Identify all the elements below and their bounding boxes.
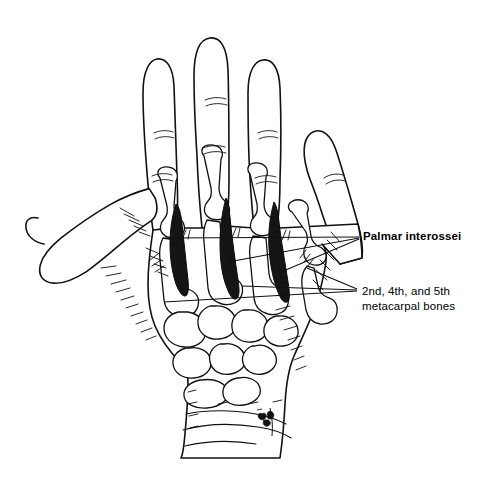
- carpal-bone-7: [242, 345, 276, 374]
- hand-anatomy-illustration: [0, 0, 481, 485]
- carpal-bone-9: [223, 377, 260, 405]
- carpal-bone-6: [209, 344, 245, 375]
- carpal-bone-3: [232, 310, 268, 342]
- anatomy-figure: Palmar interossei 2nd, 4th, and 5th meta…: [0, 0, 481, 485]
- label-palmar-interossei: Palmar interossei: [363, 230, 461, 242]
- carpal-bone-5: [173, 348, 211, 378]
- label-metacarpal-bones: 2nd, 4th, and 5th metacarpal bones: [362, 284, 455, 314]
- carpal-bone-4: [264, 316, 298, 346]
- carpal-bone-2: [198, 306, 236, 339]
